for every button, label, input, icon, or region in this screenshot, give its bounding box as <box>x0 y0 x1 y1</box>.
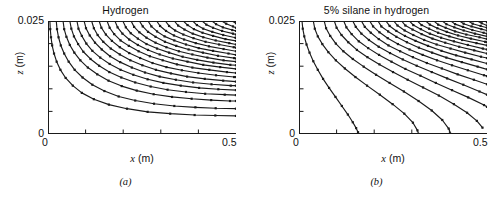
panel-b-plot-area <box>299 21 487 134</box>
panel-a-xtick-right: 0.5 <box>222 136 237 148</box>
panel-a-xtick-left: 0 <box>42 136 48 148</box>
panel-a-xlabel: x (m) <box>48 152 236 164</box>
panel-b-xtick-left: 0 <box>293 136 299 148</box>
panel-b-ytick-top: 0.025 <box>251 14 295 26</box>
panel-b-xtick-right: 0.5 <box>473 136 488 148</box>
panel-b-ytick-bottom: 0 <box>251 127 295 139</box>
panel-b-svg <box>299 21 487 134</box>
panel-b-label: (b) <box>251 176 502 187</box>
panel-b-ylabel: z (m) <box>264 43 276 83</box>
figure-container: Hydrogen 0.025 0 z (m) 0 0.5 x (m) (a) 5… <box>0 0 502 198</box>
panel-a-ylabel: z (m) <box>13 43 25 83</box>
panel-b-xlabel: x (m) <box>299 152 487 164</box>
panel-a-ytick-top: 0.025 <box>0 14 44 26</box>
panel-a: Hydrogen 0.025 0 z (m) 0 0.5 x (m) (a) <box>0 0 251 198</box>
panel-a-plot-area <box>48 21 236 134</box>
panel-b: 5% silane in hydrogen 0.025 0 z (m) 0 0.… <box>251 0 502 198</box>
panel-a-ytick-bottom: 0 <box>0 127 44 139</box>
panel-a-svg <box>48 21 236 134</box>
panel-a-label: (a) <box>0 176 251 187</box>
